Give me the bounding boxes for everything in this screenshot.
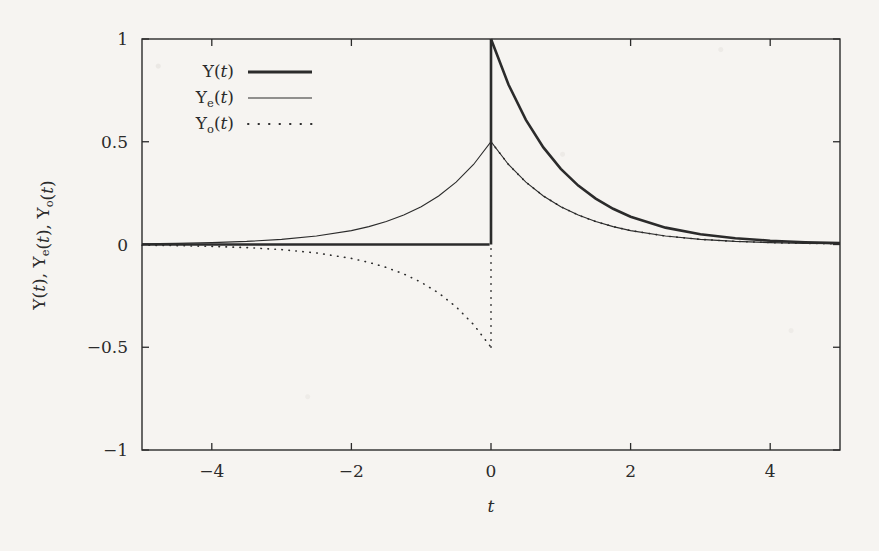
y-tick-label: −1: [103, 440, 128, 460]
y-tick-labels: −1−0.500.51: [87, 29, 128, 460]
exponential-even-odd-decomposition-chart: −4−2024 −1−0.500.51 t Υ(t), Υe(t), Υo(t)…: [0, 0, 879, 551]
x-tick-label: 0: [486, 461, 497, 481]
x-tick-labels: −4−2024: [199, 461, 775, 481]
y-tick-label: 0.5: [101, 132, 128, 152]
legend-label: Υo(t): [195, 113, 234, 136]
y-tick-label: 0: [117, 235, 128, 255]
data-series-group: [142, 39, 840, 347]
x-axis-title: t: [488, 496, 495, 516]
series-line-odd: [142, 245, 491, 347]
legend: Υ(t)Υe(t)Υo(t): [195, 61, 312, 136]
legend-label: Υ(t): [202, 61, 234, 81]
svg-text:Υ(t), Υe(t), Υo(t): Υ(t), Υe(t), Υo(t): [29, 180, 57, 310]
y-tick-label: −0.5: [87, 337, 128, 357]
series-line-causal-decay: [491, 39, 840, 243]
figure-container: −4−2024 −1−0.500.51 t Υ(t), Υe(t), Υo(t)…: [0, 0, 879, 551]
x-tick-label: −4: [199, 461, 224, 481]
y-axis-title: Υ(t), Υe(t), Υo(t): [29, 180, 57, 310]
x-tick-label: 4: [765, 461, 776, 481]
legend-label: Υe(t): [195, 87, 234, 110]
x-tick-label: −2: [339, 461, 364, 481]
y-tick-label: 1: [117, 29, 128, 49]
x-tick-label: 2: [625, 461, 636, 481]
